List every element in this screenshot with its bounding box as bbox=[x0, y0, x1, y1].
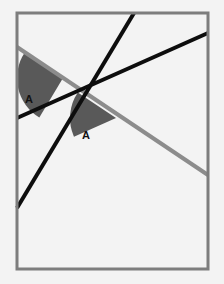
angle-a-upper-label: A bbox=[25, 93, 33, 105]
geometry-canvas: A A bbox=[0, 0, 224, 284]
angle-a-lower-label: A bbox=[82, 129, 90, 141]
geometry-figure: A A bbox=[0, 0, 224, 284]
